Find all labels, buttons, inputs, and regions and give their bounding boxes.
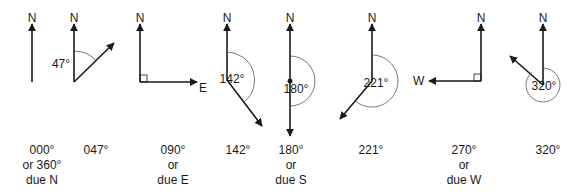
direction-label-east: E bbox=[199, 81, 213, 96]
angle-arc-icon bbox=[290, 56, 315, 106]
north-label: N bbox=[223, 11, 232, 25]
angle-label-221: 221° bbox=[356, 76, 396, 91]
bearing-090-figure bbox=[140, 24, 197, 82]
right-angle-icon bbox=[474, 74, 481, 81]
north-label: N bbox=[368, 11, 377, 25]
direction-label-west: W bbox=[413, 74, 427, 89]
bearing-047-figure bbox=[74, 24, 114, 82]
caption-270: 270° or due W bbox=[429, 143, 499, 188]
angle-label-320: 320° bbox=[524, 79, 564, 94]
caption-047: 047° bbox=[61, 143, 131, 158]
north-label: N bbox=[70, 11, 79, 25]
caption-221: 221° bbox=[336, 143, 406, 158]
angle-label-180: 180° bbox=[276, 82, 316, 97]
north-label: N bbox=[286, 11, 295, 25]
caption-320: 320° bbox=[513, 143, 575, 158]
bearing-180-figure bbox=[288, 24, 315, 136]
angle-label-047: 47° bbox=[41, 57, 81, 72]
right-angle-icon bbox=[140, 75, 147, 82]
caption-090: 090° or due E bbox=[138, 143, 208, 188]
north-label: N bbox=[477, 11, 486, 25]
bearing-270-figure bbox=[429, 24, 481, 81]
north-label: N bbox=[539, 11, 548, 25]
angle-label-142: 142° bbox=[212, 72, 252, 87]
north-label: N bbox=[136, 11, 145, 25]
caption-180: 180° or due S bbox=[256, 143, 326, 188]
bearing-221-figure bbox=[340, 24, 398, 119]
north-label: N bbox=[28, 11, 37, 25]
